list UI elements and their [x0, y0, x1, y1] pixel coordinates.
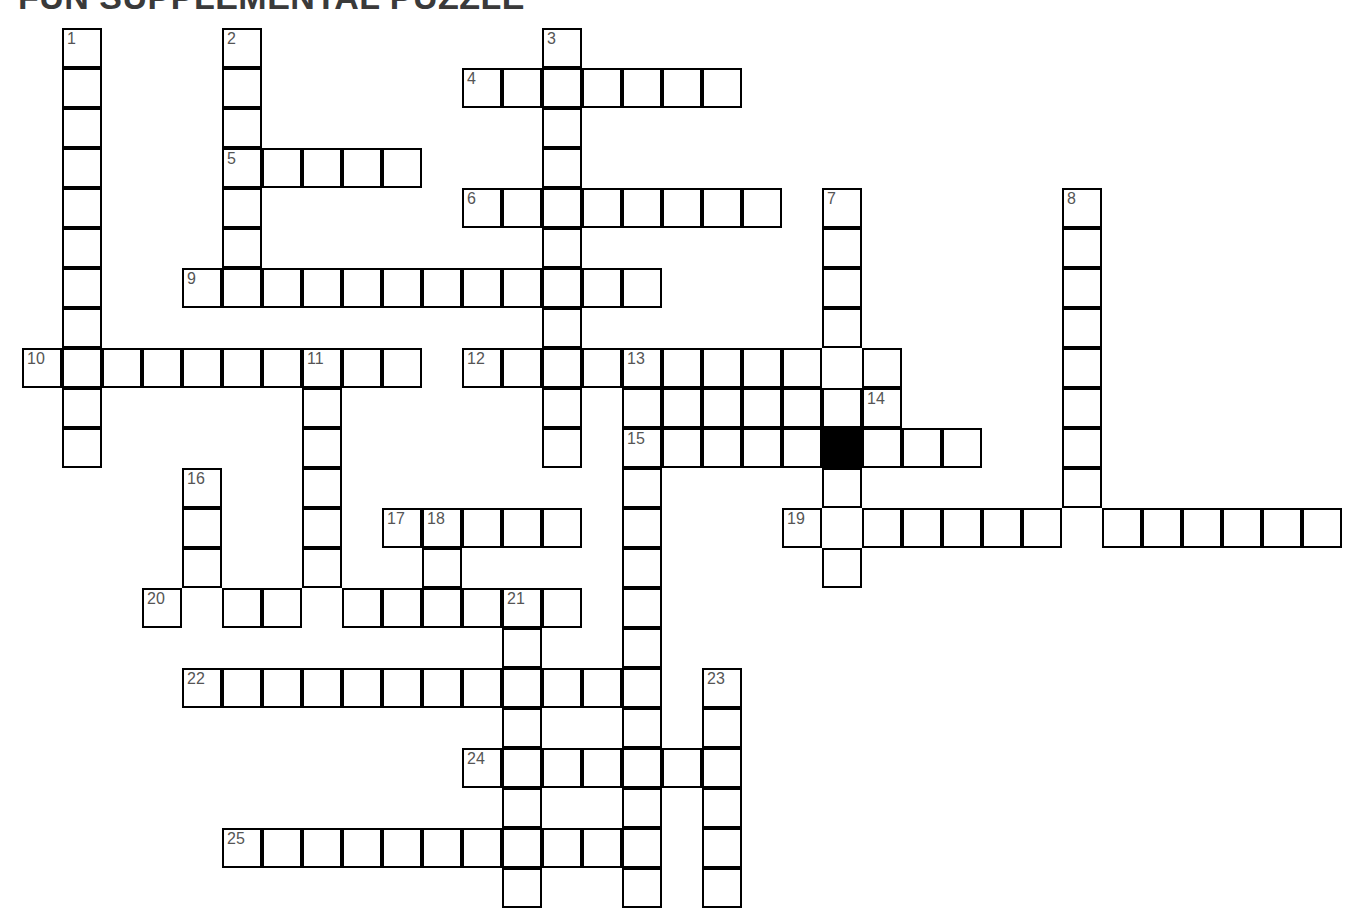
grid-cell[interactable]	[542, 428, 582, 468]
grid-cell[interactable]	[622, 588, 662, 628]
grid-cell[interactable]	[462, 268, 502, 308]
grid-cell[interactable]	[542, 668, 582, 708]
grid-cell[interactable]	[542, 348, 582, 388]
grid-cell[interactable]	[662, 188, 702, 228]
grid-cell[interactable]	[742, 188, 782, 228]
grid-cell-numbered-25[interactable]: 25	[222, 828, 262, 868]
grid-cell[interactable]	[942, 508, 982, 548]
grid-cell[interactable]	[622, 468, 662, 508]
grid-cell[interactable]	[1262, 508, 1302, 548]
grid-cell[interactable]	[502, 828, 542, 868]
grid-cell-numbered-16[interactable]: 16	[182, 468, 222, 508]
grid-cell-numbered-24[interactable]: 24	[462, 748, 502, 788]
grid-cell[interactable]	[1182, 508, 1222, 548]
grid-cell[interactable]	[302, 148, 342, 188]
grid-cell-numbered-21[interactable]: 21	[502, 588, 542, 628]
grid-cell[interactable]	[302, 508, 342, 548]
grid-cell[interactable]	[542, 828, 582, 868]
grid-cell[interactable]	[582, 668, 622, 708]
grid-cell[interactable]	[62, 388, 102, 428]
grid-cell[interactable]	[262, 668, 302, 708]
grid-cell[interactable]	[1222, 508, 1262, 548]
grid-cell[interactable]	[702, 828, 742, 868]
grid-cell[interactable]	[502, 188, 542, 228]
grid-cell[interactable]	[342, 268, 382, 308]
grid-cell[interactable]	[422, 828, 462, 868]
grid-cell[interactable]	[422, 268, 462, 308]
grid-cell-numbered-5[interactable]: 5	[222, 148, 262, 188]
grid-cell[interactable]	[422, 668, 462, 708]
grid-cell[interactable]	[582, 828, 622, 868]
grid-cell[interactable]	[822, 388, 862, 428]
grid-cell[interactable]	[502, 748, 542, 788]
grid-cell[interactable]	[502, 268, 542, 308]
grid-cell[interactable]	[302, 468, 342, 508]
grid-cell[interactable]	[622, 188, 662, 228]
grid-cell[interactable]	[702, 188, 742, 228]
grid-cell[interactable]	[582, 748, 622, 788]
grid-cell[interactable]	[662, 348, 702, 388]
grid-cell[interactable]	[302, 268, 342, 308]
grid-cell[interactable]	[382, 828, 422, 868]
grid-cell[interactable]	[1062, 468, 1102, 508]
grid-cell[interactable]	[1062, 308, 1102, 348]
grid-cell[interactable]	[542, 308, 582, 348]
grid-cell[interactable]	[542, 508, 582, 548]
grid-cell[interactable]	[622, 868, 662, 908]
grid-cell[interactable]	[502, 668, 542, 708]
grid-cell-numbered-8[interactable]: 8	[1062, 188, 1102, 228]
grid-cell[interactable]	[702, 708, 742, 748]
grid-cell[interactable]	[462, 668, 502, 708]
grid-cell[interactable]	[782, 348, 822, 388]
grid-cell[interactable]	[342, 348, 382, 388]
grid-cell[interactable]	[702, 788, 742, 828]
grid-cell[interactable]	[1302, 508, 1342, 548]
grid-cell[interactable]	[302, 668, 342, 708]
grid-cell[interactable]	[862, 508, 902, 548]
grid-cell[interactable]	[422, 548, 462, 588]
grid-cell[interactable]	[182, 348, 222, 388]
grid-cell[interactable]	[502, 508, 542, 548]
grid-cell[interactable]	[62, 188, 102, 228]
grid-cell[interactable]	[542, 748, 582, 788]
grid-cell[interactable]	[342, 668, 382, 708]
grid-cell[interactable]	[902, 428, 942, 468]
grid-cell[interactable]	[582, 188, 622, 228]
grid-cell[interactable]	[822, 548, 862, 588]
grid-cell[interactable]	[622, 268, 662, 308]
grid-cell[interactable]	[622, 788, 662, 828]
grid-cell[interactable]	[742, 348, 782, 388]
grid-cell[interactable]	[462, 588, 502, 628]
grid-cell[interactable]	[182, 548, 222, 588]
grid-cell-numbered-9[interactable]: 9	[182, 268, 222, 308]
grid-cell-numbered-2[interactable]: 2	[222, 28, 262, 68]
grid-cell[interactable]	[622, 548, 662, 588]
grid-cell[interactable]	[222, 68, 262, 108]
grid-cell[interactable]	[782, 388, 822, 428]
grid-cell[interactable]	[622, 628, 662, 668]
grid-cell-numbered-3[interactable]: 3	[542, 28, 582, 68]
grid-cell[interactable]	[622, 708, 662, 748]
grid-cell[interactable]	[62, 308, 102, 348]
grid-cell[interactable]	[542, 388, 582, 428]
grid-cell[interactable]	[382, 668, 422, 708]
grid-cell-numbered-19[interactable]: 19	[782, 508, 822, 548]
grid-cell[interactable]	[622, 68, 662, 108]
grid-cell[interactable]	[62, 268, 102, 308]
grid-cell[interactable]	[1062, 388, 1102, 428]
grid-cell-numbered-14[interactable]: 14	[862, 388, 902, 428]
grid-cell-numbered-20[interactable]: 20	[142, 588, 182, 628]
grid-cell[interactable]	[542, 588, 582, 628]
grid-cell[interactable]	[1062, 268, 1102, 308]
grid-cell[interactable]	[222, 668, 262, 708]
grid-cell[interactable]	[382, 348, 422, 388]
grid-cell[interactable]	[262, 268, 302, 308]
grid-cell[interactable]	[222, 268, 262, 308]
grid-cell[interactable]	[302, 828, 342, 868]
grid-cell[interactable]	[222, 188, 262, 228]
grid-cell[interactable]	[542, 188, 582, 228]
grid-cell[interactable]	[502, 868, 542, 908]
grid-cell[interactable]	[662, 748, 702, 788]
grid-cell[interactable]	[582, 348, 622, 388]
